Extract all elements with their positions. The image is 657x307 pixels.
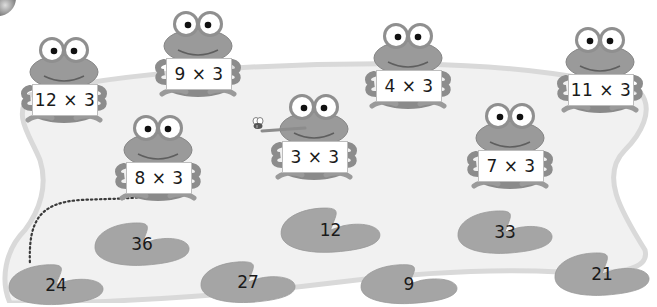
lily-pad: 12 [278, 205, 383, 255]
frog: 7 × 3 [464, 94, 556, 204]
lily-pad-value: 9 [358, 262, 460, 306]
frog: 12 × 3 [18, 28, 110, 138]
lily-pad-value: 27 [198, 259, 298, 305]
lily-pad-value: 21 [552, 250, 652, 298]
multiplication-card: 7 × 3 [478, 150, 544, 182]
fly-icon [250, 117, 266, 133]
multiplication-card: 12 × 3 [32, 84, 98, 116]
lily-pad: 27 [198, 259, 298, 305]
multiplication-card: 4 × 3 [376, 70, 442, 102]
lily-pad-value: 24 [6, 262, 106, 307]
lily-pad-value: 33 [455, 208, 555, 256]
frog-icon [464, 94, 556, 204]
lily-pad: 9 [358, 262, 460, 306]
multiplication-card: 8 × 3 [126, 162, 192, 194]
frog: 8 × 3 [112, 106, 204, 216]
lily-pad-value: 36 [92, 220, 192, 268]
frog-icon [554, 18, 646, 128]
frog-icon [152, 2, 244, 112]
multiplication-card: 11 × 3 [568, 74, 634, 106]
frog: 9 × 3 [152, 2, 244, 112]
lily-pad: 33 [455, 208, 555, 256]
frog-icon [268, 85, 360, 195]
frog-icon [362, 14, 454, 124]
frog-icon [18, 28, 110, 138]
lily-pad-value: 12 [278, 205, 383, 255]
frog: 3 × 3 [268, 85, 360, 195]
frog: 11 × 3 [554, 18, 646, 128]
frog: 4 × 3 [362, 14, 454, 124]
frog-icon [112, 106, 204, 216]
multiplication-card: 9 × 3 [166, 58, 232, 90]
lily-pad: 36 [92, 220, 192, 268]
lily-pad: 24 [6, 262, 106, 307]
multiplication-card: 3 × 3 [282, 141, 348, 173]
lily-pad: 21 [552, 250, 652, 298]
